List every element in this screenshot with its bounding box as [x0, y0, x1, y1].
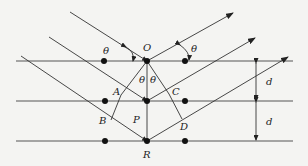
label-d-lower: d: [266, 116, 272, 127]
label-theta-left: θ: [103, 45, 109, 56]
diagram-canvas: O P R A B C D θ θ θ θ d d: [0, 0, 308, 166]
label-B: B: [98, 115, 106, 126]
atom: [182, 138, 188, 144]
atom-P: [144, 98, 150, 104]
atom: [182, 58, 188, 64]
label-theta-center-left: θ: [139, 74, 145, 85]
reflected-ray-3: [147, 57, 288, 141]
label-R: R: [142, 149, 151, 160]
incident-ray-3: [21, 56, 147, 141]
theta-arc-right: [180, 45, 189, 60]
atom: [182, 98, 188, 104]
label-A: A: [112, 86, 120, 97]
wavefront-AB: [111, 95, 121, 120]
incident-ray-2: [49, 37, 147, 101]
label-theta-center-right: θ: [150, 74, 156, 85]
theta-arc-left: [126, 47, 133, 61]
atom-R: [144, 138, 150, 144]
wavefront-CD: [169, 94, 182, 119]
bragg-diagram: O P R A B C D θ θ θ θ d d: [0, 0, 308, 166]
reflected-ray-2: [147, 38, 255, 101]
label-P: P: [132, 114, 140, 125]
reflected-ray-1: [147, 13, 233, 61]
atom: [102, 98, 108, 104]
atom: [101, 58, 107, 64]
label-O: O: [143, 42, 151, 53]
atom: [102, 138, 108, 144]
label-C: C: [172, 86, 180, 97]
label-d-upper: d: [266, 76, 272, 87]
atom-O: [144, 58, 150, 64]
label-theta-right: θ: [191, 43, 197, 54]
label-D: D: [179, 121, 188, 132]
